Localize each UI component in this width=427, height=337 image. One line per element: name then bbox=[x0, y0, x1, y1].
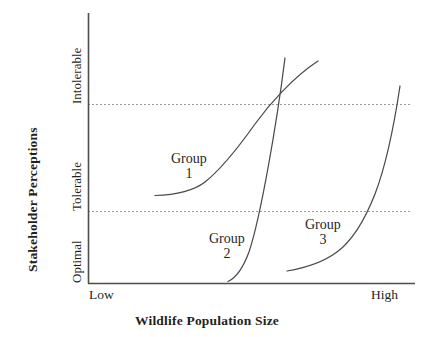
curve-label-group-2-text: Group bbox=[209, 231, 245, 246]
curve-label-group-1-number: 1 bbox=[171, 167, 207, 181]
curve-label-group-3: Group 3 bbox=[305, 218, 341, 247]
y-tick-label-intolerable: Intolerable bbox=[70, 48, 83, 104]
curve-label-group-2: Group 2 bbox=[209, 232, 245, 261]
y-axis-title: Stakeholder Perceptions bbox=[26, 127, 40, 272]
curve-label-group-2-number: 2 bbox=[209, 247, 245, 261]
x-axis-title: Wildlife Population Size bbox=[135, 314, 279, 328]
curve-label-group-1-text: Group bbox=[171, 151, 207, 166]
curve-label-group-3-text: Group bbox=[305, 217, 341, 232]
y-tick-label-tolerable: Tolerable bbox=[70, 162, 83, 211]
curve-label-group-3-number: 3 bbox=[305, 233, 341, 247]
curve-label-group-1: Group 1 bbox=[171, 152, 207, 181]
curve-group-3 bbox=[287, 86, 400, 271]
plot-area bbox=[0, 0, 427, 337]
y-tick-label-optimal: Optimal bbox=[70, 240, 83, 283]
x-tick-label-high: High bbox=[371, 288, 398, 302]
chart-figure: Stakeholder Perceptions Optimal Tolerabl… bbox=[0, 0, 427, 337]
x-tick-label-low: Low bbox=[89, 288, 114, 302]
